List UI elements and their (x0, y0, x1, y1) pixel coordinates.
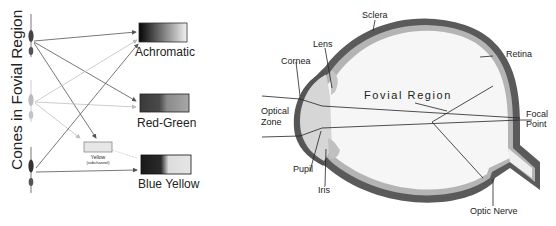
lens-label: Lens (313, 39, 333, 49)
pupil-label: Pupil (293, 164, 313, 174)
fovial-region-label: Fovial Region (364, 89, 452, 101)
achromatic-label: Achromatic (135, 45, 195, 59)
cone-icon-dark-top (28, 14, 33, 57)
cones-vertical-title: Cones in Fovial Region (8, 10, 25, 170)
eye-diagram: Sclera Lens Cornea Retina Optical Zone F… (261, 10, 548, 216)
red-green-bar (140, 94, 189, 112)
optic-nerve-label: Optic Nerve (470, 206, 518, 216)
retina-label: Retina (506, 49, 532, 59)
focal-point-label-line1: Focal (526, 109, 548, 119)
cone-icon-light-middle (28, 80, 33, 122)
cornea-label: Cornea (281, 56, 311, 66)
optical-zone-label-line1: Optical (261, 106, 289, 116)
cone-icon-dark-bottom (28, 147, 33, 193)
focal-point-label-line2: Point (526, 119, 547, 129)
optical-zone-label-line2: Zone (261, 117, 282, 127)
blue-yellow-label: Blue Yellow (138, 177, 200, 191)
sclera-label: Sclera (362, 10, 388, 20)
iris-label: Iris (318, 185, 330, 195)
achromatic-bar (139, 23, 187, 42)
yellow-subchannel-sublabel: (subchannel) (86, 160, 110, 165)
red-green-label: Red-Green (137, 116, 196, 130)
yellow-subchannel-box (84, 142, 112, 152)
cones-diagram: Cones in Fovial Region (8, 10, 200, 193)
blue-yellow-bar (141, 155, 191, 174)
